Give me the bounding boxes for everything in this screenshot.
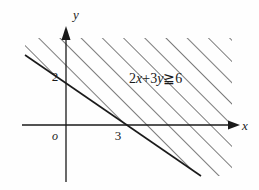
y-intercept-label: 2 [52, 69, 59, 84]
x-axis-label: x [241, 118, 248, 133]
inequality-coef-x: 2 [129, 71, 136, 86]
inequality-figure: x y o 2 3 2x+3y≧6 [0, 0, 259, 190]
inequality-plus: + [142, 71, 150, 86]
y-axis: y [62, 7, 80, 182]
x-intercept-label: 3 [115, 128, 122, 143]
shaded-region [0, 0, 259, 190]
arrow-up-icon [62, 26, 71, 40]
inequality-rhs: 6 [175, 71, 182, 86]
inequality-coef-y: 3 [150, 71, 157, 86]
inequality-label: 2x+3y≧6 [129, 71, 182, 86]
arrow-right-icon [228, 121, 240, 130]
graph-canvas: x y o 2 3 2x+3y≧6 [0, 0, 259, 190]
origin-label: o [52, 129, 58, 143]
y-axis-label: y [71, 7, 79, 22]
region-hatching [0, 0, 259, 190]
inequality-relation-icon: ≧ [163, 71, 175, 86]
